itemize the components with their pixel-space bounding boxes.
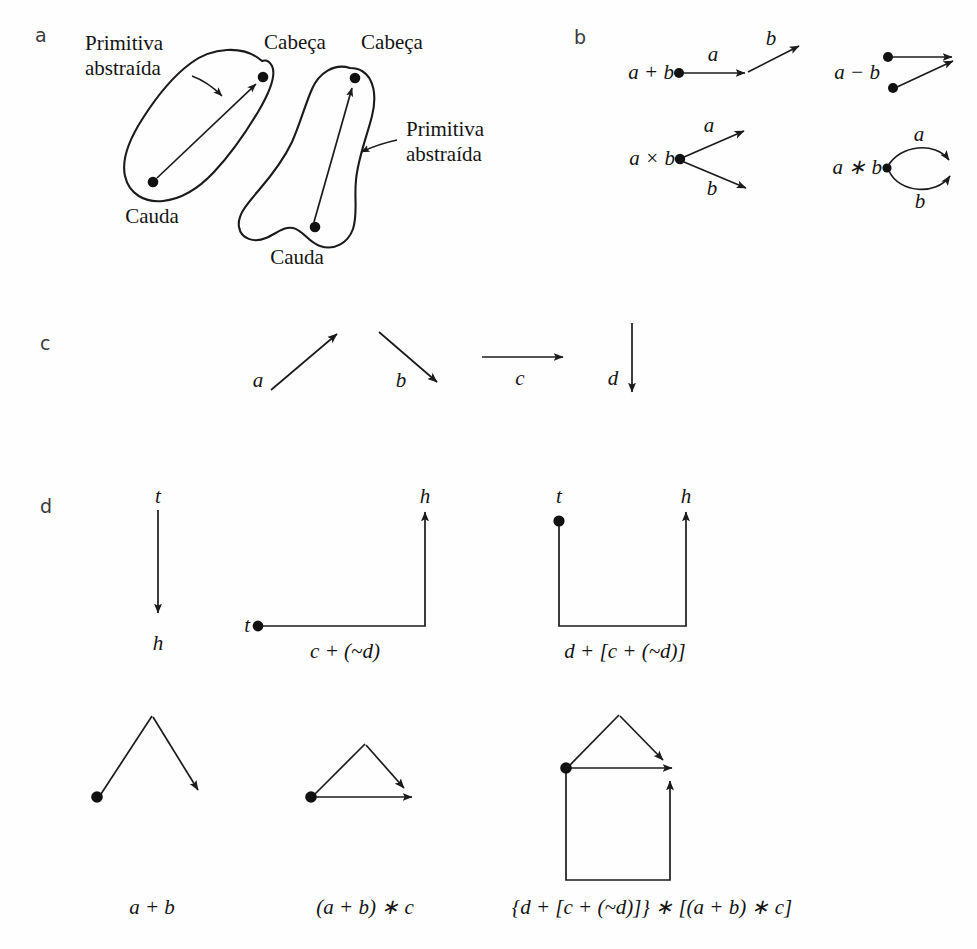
caption-d-plus-group: d + [c + (~d)] <box>564 639 685 664</box>
label-primitiva-abstraida-right-line2: abstraída <box>406 142 482 166</box>
figure-root: a b c d <box>0 0 977 949</box>
primitive-arrow-b <box>379 332 437 382</box>
primitive-label-b: b <box>396 368 407 393</box>
edge-label-add-a: a <box>708 42 719 67</box>
expr-subtraction: a − b <box>834 60 880 85</box>
panel-b-addition-graph <box>674 46 799 78</box>
panel-b-subtraction-graph <box>883 52 953 93</box>
caption-a-plus-b-star-c: (a + b) ∗ c <box>316 895 413 920</box>
label-primitiva-abstraida-left-line1: Primitiva <box>85 31 163 55</box>
tail-node-left <box>148 177 159 188</box>
primitive-vector-right <box>314 88 352 222</box>
pointer-primitive-left <box>192 76 222 96</box>
expr-addition: a + b <box>628 60 674 85</box>
label-cabeca-left: Cabeça <box>264 30 326 55</box>
expr-star: a ∗ b <box>833 155 883 180</box>
edge-label-star-b: b <box>915 189 926 214</box>
tail-node-right <box>310 222 321 233</box>
node-label-t-2: t <box>244 613 250 638</box>
edge-label-star-a: a <box>914 122 925 147</box>
panel-d-a-plus-b <box>91 716 198 803</box>
node-label-t-3: t <box>556 484 562 509</box>
primitive-vector-left <box>157 84 256 178</box>
label-primitiva-abstraida-right: Primitivaabstraída <box>406 117 484 167</box>
panel-d-full-expression <box>560 715 672 880</box>
label-primitiva-abstraida-left-line2: abstraída <box>85 56 161 80</box>
panel-d-c-plus-not-d <box>253 512 425 631</box>
edge-label-mul-a: a <box>704 113 715 138</box>
caption-a-plus-b: a + b <box>129 895 175 920</box>
head-node-right <box>350 73 361 84</box>
panel-c-primitives <box>271 323 632 392</box>
primitive-label-a: a <box>253 368 264 393</box>
label-cabeca-right: Cabeça <box>361 30 423 55</box>
panel-d-d-plus-group <box>553 512 686 626</box>
edge-label-mul-b: b <box>707 176 718 201</box>
primitive-label-c: c <box>515 366 524 391</box>
label-cauda-left: Cauda <box>125 204 179 229</box>
pointer-primitive-right <box>361 140 397 152</box>
label-cauda-right: Cauda <box>270 245 324 270</box>
figure-vector-layer <box>0 0 977 949</box>
node-label-h-2: h <box>420 484 431 509</box>
panel-a-blob-right <box>239 67 397 248</box>
label-primitiva-abstraida-right-line1: Primitiva <box>406 117 484 141</box>
panel-d-a-plus-b-star-c <box>305 744 412 803</box>
node-label-h-3: h <box>681 484 692 509</box>
caption-full-expression: {d + [c + (~d)]} ∗ [(a + b) ∗ c] <box>512 895 792 920</box>
node-label-h-1: h <box>153 631 164 656</box>
head-node-left <box>258 72 269 83</box>
primitive-arrow-a <box>271 334 337 390</box>
node-label-t-1: t <box>155 484 161 509</box>
caption-c-plus-not-d: c + (~d) <box>310 639 380 664</box>
primitive-label-d: d <box>608 366 619 391</box>
expr-multiplication: a × b <box>629 146 675 171</box>
label-primitiva-abstraida-left: Primitivaabstraída <box>85 31 163 81</box>
panel-b-star-graph <box>882 148 950 190</box>
edge-label-add-b: b <box>766 26 777 51</box>
